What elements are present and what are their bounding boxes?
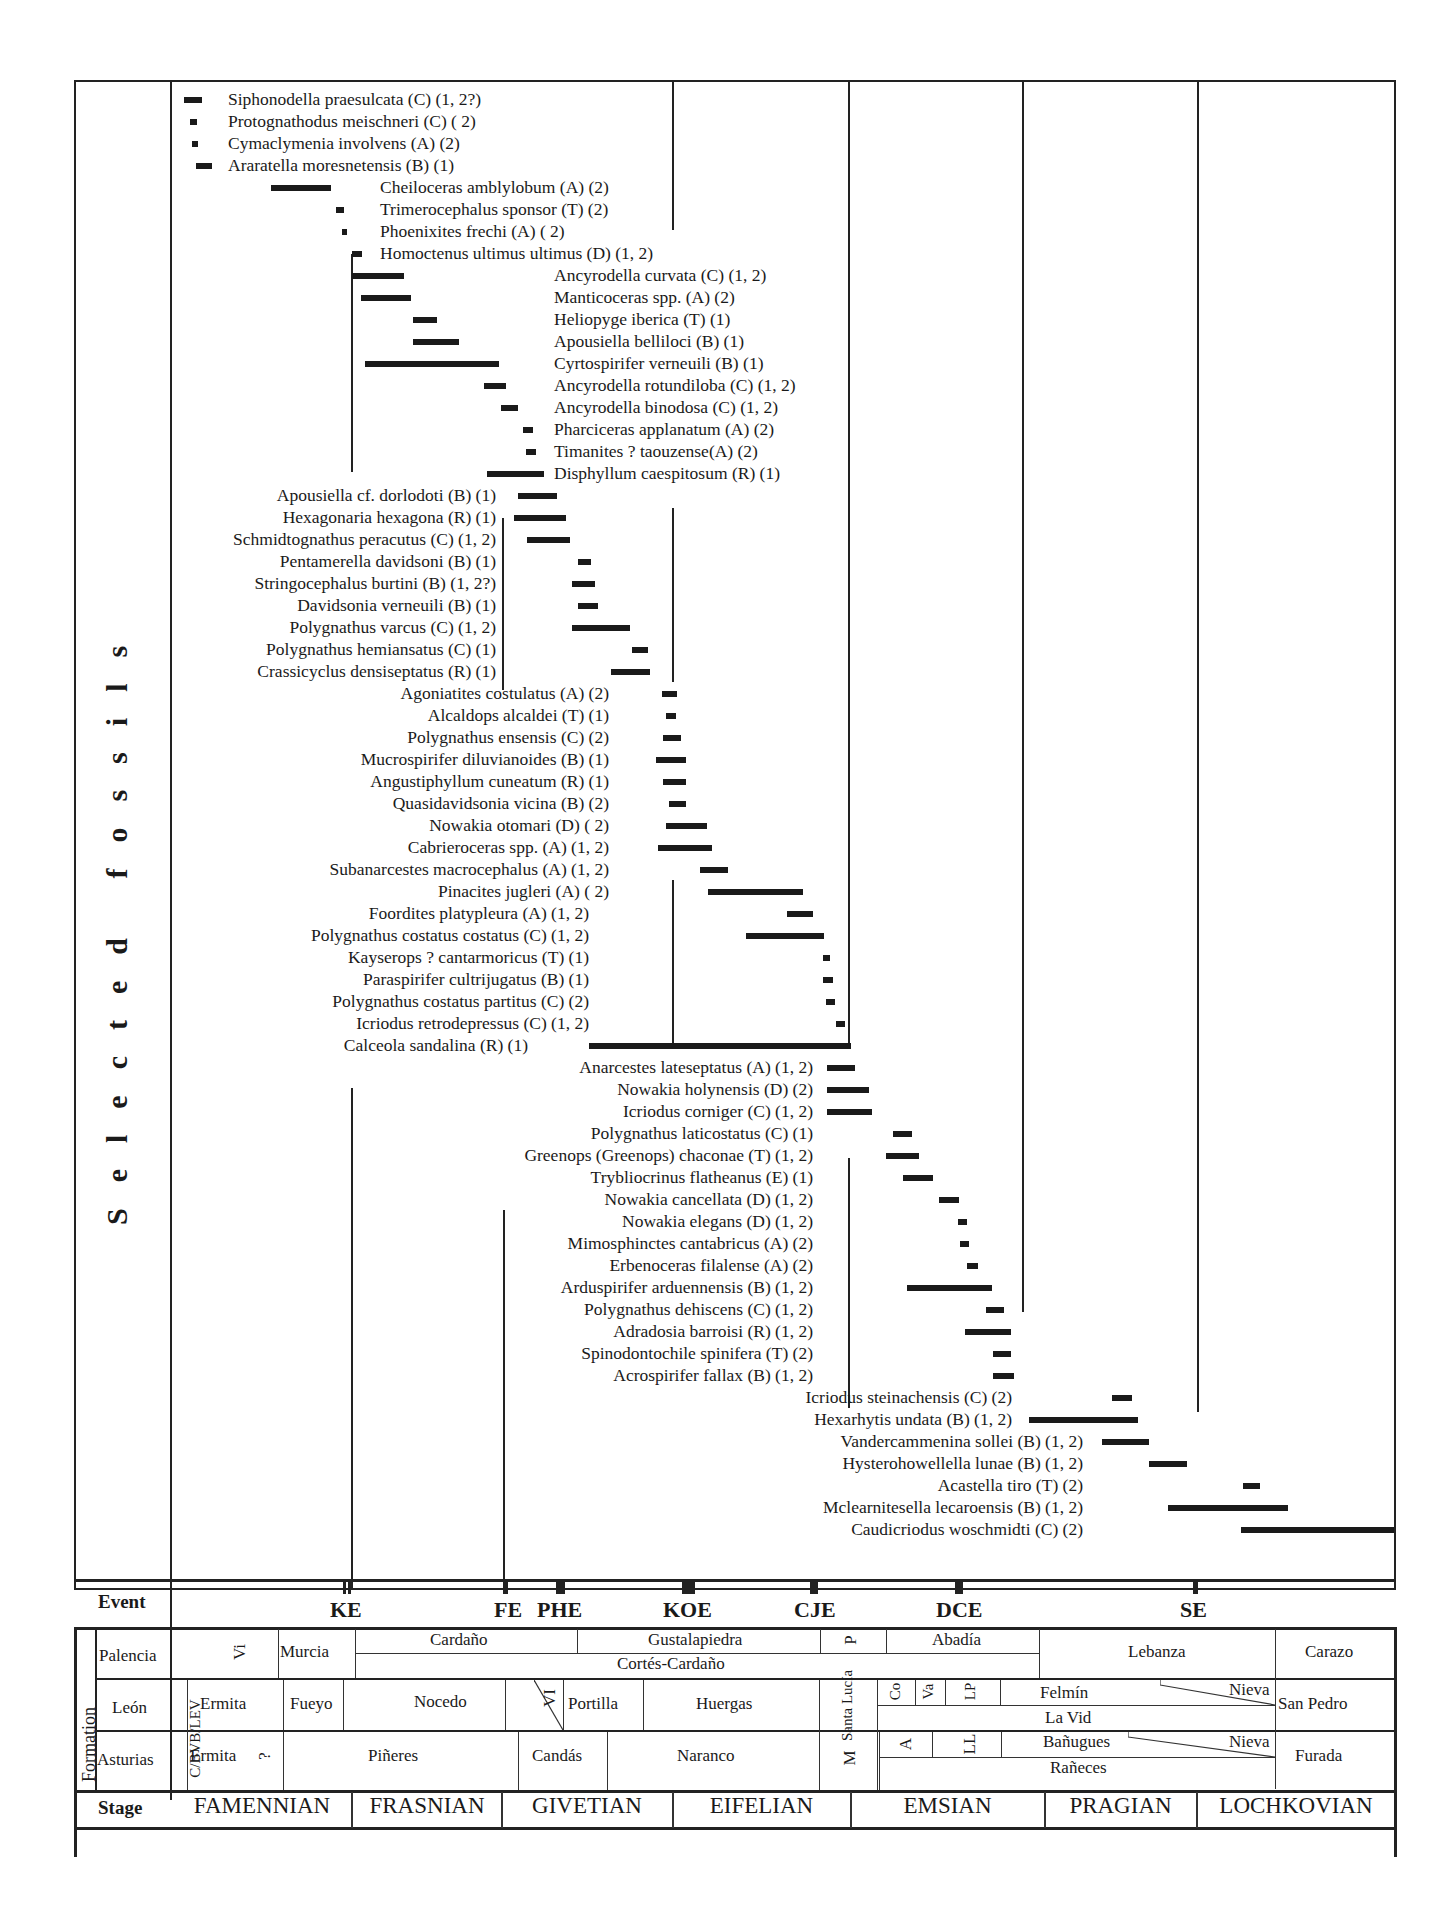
range-bar [663, 735, 681, 741]
range-bar [190, 119, 197, 125]
taxon-label: Acrospirifer fallax (B) (1, 2) [613, 1365, 813, 1385]
range-bar [958, 1219, 967, 1225]
range-bar [578, 559, 591, 565]
taxon-label: Anarcestes lateseptatus (A) (1, 2) [579, 1057, 813, 1077]
range-bar [939, 1197, 959, 1203]
taxon-label: Alcaldops alcaldei (T) (1) [428, 705, 609, 725]
taxon-label: Cheiloceras amblylobum (A) (2) [380, 177, 609, 197]
event-label: DCE [936, 1597, 982, 1623]
taxon-label: Vandercammenina sollei (B) (1, 2) [841, 1431, 1084, 1451]
range-bar [365, 361, 499, 367]
stage-frasnian: FRASNIAN [352, 1793, 502, 1819]
range-bar [893, 1131, 912, 1137]
range-bar [589, 1043, 851, 1049]
divider [505, 1680, 506, 1730]
taxon-label: Manticoceras spp. (A) (2) [554, 287, 735, 307]
range-bar [1149, 1461, 1187, 1467]
range-bar [572, 581, 595, 587]
taxon-label: Disphyllum caespitosum (R) (1) [554, 463, 780, 483]
range-bar [526, 449, 536, 455]
unit-cortes-cardano: Cortés-Cardaño [617, 1654, 725, 1674]
taxon-label: Icriodus steinachensis (C) (2) [805, 1387, 1012, 1407]
unit-furada: Furada [1295, 1746, 1342, 1766]
divider [1275, 1629, 1276, 1789]
range-bar [1243, 1483, 1260, 1489]
divider [1000, 1680, 1001, 1705]
taxon-label: Nowakia holynensis (D) (2) [617, 1079, 813, 1099]
left-column-divider [170, 80, 172, 1800]
taxon-label: Polygnathus ensensis (C) (2) [407, 727, 609, 747]
range-bar [336, 207, 344, 213]
event-label: PHE [537, 1597, 582, 1623]
unit-ermita-asturias: Ermita [190, 1746, 236, 1766]
taxon-label: Angustiphyllum cuneatum (R) (1) [370, 771, 609, 791]
unit-nieva-leon: Nieva [1229, 1680, 1270, 1700]
taxon-label: Nowakia cancellata (D) (1, 2) [605, 1189, 813, 1209]
range-bar [656, 757, 686, 763]
range-bar [184, 97, 202, 103]
taxon-label: Polygnathus varcus (C) (1, 2) [289, 617, 496, 637]
unit-lebanza: Lebanza [1128, 1642, 1186, 1662]
range-bar [836, 1021, 845, 1027]
range-bar [1102, 1439, 1149, 1445]
event-tick [955, 1582, 963, 1594]
divider [283, 1732, 284, 1790]
unit-murcia: Murcia [280, 1642, 329, 1662]
range-bar [527, 537, 570, 543]
range-bar [663, 779, 686, 785]
unit-fueyo: Fueyo [290, 1694, 333, 1714]
unit-lp: LP [962, 1683, 979, 1701]
divider [877, 1680, 878, 1790]
divider [915, 1680, 916, 1705]
taxon-label: Trimerocephalus sponsor (T) (2) [380, 199, 608, 219]
range-bar [484, 383, 506, 389]
range-bar [886, 1153, 919, 1159]
region-palencia: Palencia [99, 1646, 157, 1666]
event-tick [810, 1582, 818, 1594]
range-bar [1029, 1417, 1138, 1423]
range-bar [662, 691, 677, 697]
range-bar [746, 933, 824, 939]
taxon-label: Araratella moresnetensis (B) (1) [228, 155, 454, 175]
unit-candas: Candás [532, 1746, 582, 1766]
boundary-line [672, 82, 674, 230]
range-bar [960, 1241, 969, 1247]
stage-left [74, 1790, 77, 1830]
divider [643, 1680, 644, 1730]
boundary-line [1022, 82, 1024, 1312]
range-bar [361, 295, 411, 301]
range-bar [967, 1263, 978, 1269]
taxon-label: Arduspirifer arduennensis (B) (1, 2) [561, 1277, 813, 1297]
unit-nocedo: Nocedo [414, 1692, 467, 1712]
taxon-label: Heliopyge iberica (T) (1) [554, 309, 730, 329]
taxon-label: Schmidtognathus peracutus (C) (1, 2) [233, 529, 496, 549]
stage-eifelian: EIFELIAN [673, 1793, 850, 1819]
range-bar [907, 1285, 992, 1291]
range-bar [514, 515, 566, 521]
range-bar [572, 625, 630, 631]
taxon-label: Erbenoceras filalense (A) (2) [609, 1255, 813, 1275]
taxon-label: Apousiella belliloci (B) (1) [554, 331, 744, 351]
range-bar [826, 999, 835, 1005]
divider [945, 1680, 946, 1705]
unit-vi: Vi [230, 1644, 250, 1660]
divider [819, 1680, 820, 1790]
event-tick [682, 1582, 695, 1594]
taxon-label: Mclearnitesella lecaroensis (B) (1, 2) [823, 1497, 1083, 1517]
taxon-label: Adradosia barroisi (R) (1, 2) [613, 1321, 813, 1341]
unit-va: Va [920, 1684, 937, 1700]
range-bar [827, 1065, 855, 1071]
event-label: KE [330, 1597, 362, 1623]
unit-santa-lucia: Santa Lucía [839, 1670, 856, 1741]
range-bar [352, 273, 404, 279]
taxon-label: Polygnathus dehiscens (C) (1, 2) [584, 1299, 813, 1319]
event-label: CJE [794, 1597, 836, 1623]
range-bar [827, 1087, 869, 1093]
formation-right [1394, 1627, 1397, 1857]
taxon-label: Homoctenus ultimus ultimus (D) (1, 2) [380, 243, 653, 263]
range-bar [413, 339, 459, 345]
event-row-label: Event [98, 1591, 146, 1613]
taxon-label: Pinacites jugleri (A) ( 2) [438, 881, 609, 901]
region-leon: León [112, 1698, 147, 1718]
taxon-label: Spinodontochile spinifera (T) (2) [581, 1343, 813, 1363]
